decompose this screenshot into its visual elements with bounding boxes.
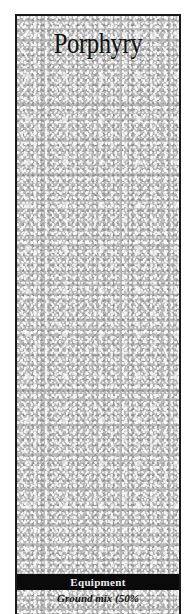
section-header-equipment: Equipment	[17, 574, 179, 590]
material-card: Porphyry Equipment Ground mix (50%	[15, 14, 181, 614]
card-description: Ground mix (50%	[17, 592, 179, 604]
card-title: Porphyry	[32, 26, 165, 60]
